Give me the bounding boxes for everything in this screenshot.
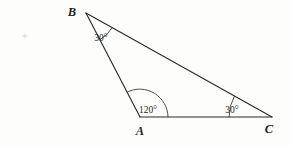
vertex-label-A: A — [135, 124, 144, 138]
angle-label-A: 120° — [139, 105, 157, 115]
angle-label-C: 30° — [225, 105, 239, 115]
triangle-side-BC — [86, 13, 272, 117]
angle-label-B: 30° — [94, 33, 108, 43]
triangle-diagram-canvas: B A C 30° 120° 30° — [0, 0, 291, 146]
geometry-figure: B A C 30° 120° 30° — [0, 0, 291, 146]
vertex-label-B: B — [67, 5, 76, 19]
registration-mark-icon — [23, 34, 28, 39]
vertex-label-C: C — [265, 122, 274, 136]
